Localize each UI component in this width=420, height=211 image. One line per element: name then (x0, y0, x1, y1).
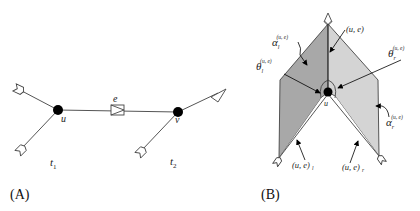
top-arrow-icon (324, 13, 332, 24)
label-spine: (u, e) (346, 24, 364, 34)
edge-u-lower-leaf (22, 110, 58, 148)
label-t2: t2 (170, 155, 177, 170)
label-theta-r: θr(u, e) (388, 45, 405, 61)
edge-u-upper-leaf (20, 90, 58, 110)
label-e: e (113, 93, 118, 104)
label-v: v (175, 114, 180, 125)
node-u-b (324, 88, 333, 97)
label-u-b: u (324, 99, 328, 108)
label-edge-l: (u, e)l (292, 160, 314, 171)
label-edge-r: (u, e)r (342, 162, 365, 173)
arrowhead-icon (211, 89, 226, 102)
label-alpha-l: αl(u, e) (272, 34, 288, 50)
leaf-hook-icon (15, 143, 28, 156)
leaf-hook-icon (13, 84, 25, 95)
label-alpha-r: αr(u, e) (386, 114, 403, 130)
leaf-hook-icon (135, 145, 148, 158)
label-u: u (61, 113, 66, 124)
panel-a: e u v t1 t2 (A) (10, 84, 226, 203)
label-theta-l: θl(u, e) (256, 58, 272, 74)
edge-v-lower-leaf (142, 112, 178, 150)
panel-b: u (u, e) αl(u, e) θl(u, e) θr(u, e) αr(u… (256, 13, 405, 203)
edge-e-box (111, 105, 124, 115)
edge-v-upper-leaf (178, 93, 218, 112)
panel-a-label: (A) (10, 187, 30, 203)
panel-b-label: (B) (261, 187, 280, 203)
label-t1: t1 (50, 156, 57, 171)
